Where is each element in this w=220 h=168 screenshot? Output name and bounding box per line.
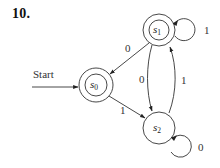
transition-s1-s2: 0 <box>139 45 152 111</box>
self-loop-s1-arrowhead <box>173 20 179 26</box>
edge-s0-to-s2 <box>109 96 145 118</box>
state-s0: s0 <box>79 68 113 102</box>
transition-s2-s1: 1 <box>169 47 187 113</box>
edge-label-s2-s2: 0 <box>198 141 204 153</box>
edge-s1-to-s2 <box>148 45 153 111</box>
edge-label-s2-s1: 1 <box>181 74 187 86</box>
transition-s0-s2: 1 <box>109 96 145 118</box>
transition-s1-s0: 0 <box>110 42 149 74</box>
edge-label-s0-s2: 1 <box>120 104 126 116</box>
state-diagram: Start s0 s1 s2 0 1 0 1 1 <box>0 0 220 168</box>
edge-s2-to-s1 <box>169 47 175 113</box>
edge-label-s1-s2: 0 <box>139 73 145 85</box>
state-s2: s2 <box>143 112 175 144</box>
start-label: Start <box>33 68 54 80</box>
state-s1-label: s1 <box>153 23 161 37</box>
state-s0-label: s0 <box>90 78 98 92</box>
transition-s1-s1: 1 <box>173 19 210 41</box>
edge-label-s1-s1: 1 <box>204 24 210 36</box>
edge-label-s1-s0: 0 <box>125 42 131 54</box>
self-loop-s2-arrowhead <box>171 136 177 142</box>
start-arrow: Start <box>32 68 78 87</box>
state-s2-label: s2 <box>153 121 161 135</box>
state-s1: s1 <box>143 14 175 46</box>
transition-s2-s2: 0 <box>171 135 204 157</box>
